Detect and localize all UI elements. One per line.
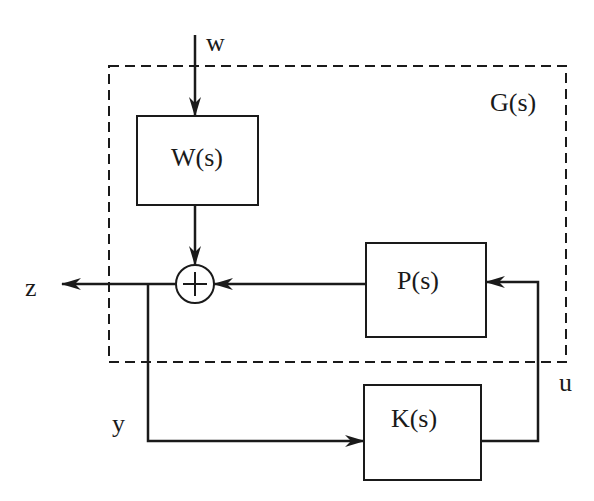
y-signal-label: y xyxy=(112,409,125,438)
u-signal-label: u xyxy=(559,368,572,397)
block-diagram: G(s) w W(s) P(s) z y K(s) u xyxy=(0,0,594,501)
p-block-label: P(s) xyxy=(397,266,439,295)
k-block-label: K(s) xyxy=(391,404,437,433)
w-block-label: W(s) xyxy=(171,143,223,172)
w-signal-label: w xyxy=(206,28,225,57)
generalized-plant-label: G(s) xyxy=(490,88,536,117)
z-signal-label: z xyxy=(25,273,37,302)
summing-junction xyxy=(176,265,214,303)
